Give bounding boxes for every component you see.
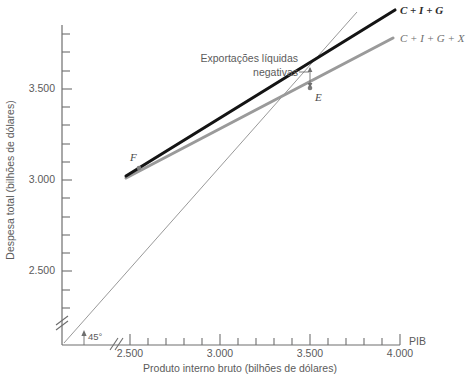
x-tick-label-4000: 4.000 — [387, 347, 413, 359]
chart-figure: 3.500 3.000 2.500 2.500 — [0, 0, 471, 384]
point-f-label: F — [129, 151, 137, 163]
angle-label-45: 45° — [88, 331, 103, 342]
series-label-c-i-g: C + I + G — [400, 4, 443, 16]
point-e-label: E — [314, 91, 322, 103]
y-tick-label-2500: 2.500 — [29, 264, 55, 276]
series-label-c-i-g-x: C + I + G + X — [400, 32, 466, 44]
line-c-i-g — [126, 10, 395, 176]
point-e-group: E — [308, 86, 322, 103]
point-f-marker — [137, 166, 142, 171]
annotation-arrow-head-up — [308, 67, 313, 72]
x-tick-label-3000: 3.000 — [207, 347, 233, 359]
angle-indicator: 45° — [81, 330, 102, 345]
point-f-group: F — [129, 151, 141, 170]
y-axis-title: Despesa total (bilhões de dólares) — [4, 100, 16, 259]
x-tick-label-2500: 2.500 — [117, 347, 143, 359]
axes-group — [62, 25, 400, 345]
y-tick-label-3000: 3.000 — [29, 173, 55, 185]
annotation-net-exports: Exportações líquidas negativas — [201, 52, 313, 88]
y-axis-ticks — [62, 34, 72, 308]
x-axis-ticks — [130, 334, 400, 345]
annotation-net-exports-line2: negativas — [253, 66, 298, 78]
x-axis-end-label-pib: PIB — [409, 335, 426, 347]
y-tick-label-3500: 3.500 — [29, 82, 55, 94]
x-axis-title: Produto interno bruto (bilhões de dólare… — [143, 362, 337, 374]
annotation-net-exports-line1: Exportações líquidas — [201, 52, 298, 64]
x-tick-label-3500: 3.500 — [297, 347, 323, 359]
economics-expenditure-chart: 3.500 3.000 2.500 2.500 — [0, 0, 471, 384]
